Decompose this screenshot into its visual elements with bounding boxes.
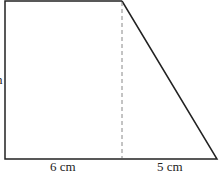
bottom-right-length-label: 5 cm bbox=[157, 160, 183, 173]
trapezoid-outline bbox=[5, 1, 217, 159]
trapezoid-diagram bbox=[0, 0, 219, 174]
bottom-left-length-label: 6 cm bbox=[50, 160, 76, 173]
left-side-label-partial: n bbox=[0, 73, 3, 86]
